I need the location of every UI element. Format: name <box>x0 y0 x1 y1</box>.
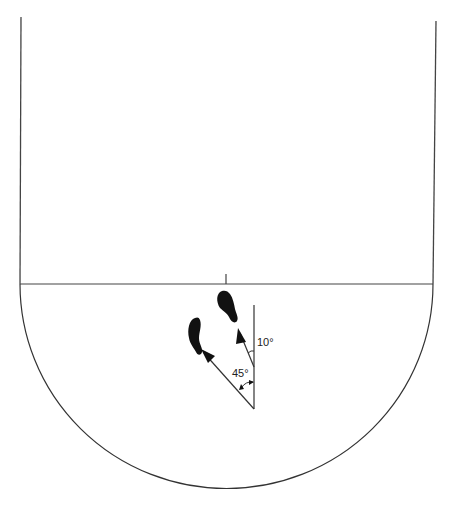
direction-arrow-45-degrees <box>204 353 254 409</box>
arrowhead-45-icon <box>201 349 215 363</box>
semicircle-arc <box>20 284 433 488</box>
diagram-canvas: 10° 45° <box>0 0 452 505</box>
left-boundary-line <box>20 17 21 284</box>
arrowhead-10-icon <box>236 328 246 344</box>
left-footprint <box>188 317 202 354</box>
angle-label-45: 45° <box>232 367 249 379</box>
angle-label-10: 10° <box>257 336 274 348</box>
right-boundary-line <box>433 21 436 284</box>
right-footprint <box>217 291 237 323</box>
angle-arc-10 <box>248 351 254 353</box>
arc-arrowhead-right-icon <box>249 380 254 385</box>
